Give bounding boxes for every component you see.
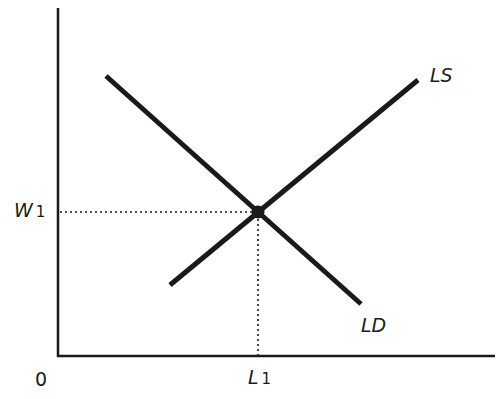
l1-label-main: L bbox=[248, 366, 259, 388]
labor-supply-curve bbox=[170, 80, 418, 285]
l1-label-sub: 1 bbox=[262, 370, 272, 388]
ls-curve-label: LS bbox=[430, 66, 453, 85]
origin-label: 0 bbox=[35, 370, 47, 389]
w1-label-sub: 1 bbox=[36, 203, 46, 221]
l1-label: L1 bbox=[248, 368, 271, 387]
equilibrium-point bbox=[252, 206, 265, 219]
w1-label: W1 bbox=[14, 201, 45, 220]
w1-label-main: W bbox=[14, 199, 33, 221]
labor-demand-curve bbox=[106, 76, 361, 304]
ld-curve-label: LD bbox=[361, 316, 386, 335]
labor-market-diagram bbox=[0, 0, 499, 399]
